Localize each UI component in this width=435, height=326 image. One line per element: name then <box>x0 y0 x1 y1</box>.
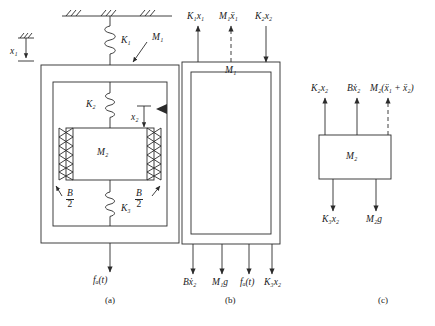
damper-left-leader <box>56 186 62 196</box>
label-force-Bx2dot-c: Bẋ₂ <box>347 84 360 94</box>
spring-K1 <box>105 16 116 65</box>
caption-panel-a: (a) <box>105 295 115 305</box>
fbd-M1-outer-box <box>182 62 280 244</box>
label-M1-body: M₁ <box>225 66 236 76</box>
damper-right-leader <box>152 186 160 196</box>
label-force-Bx2dot-b: Bẋ₂ <box>183 278 196 288</box>
label-K2: K₂ <box>86 100 96 110</box>
caption-panel-b: (b) <box>225 295 236 305</box>
panel-a <box>18 10 179 272</box>
label-force-M1g: M₁g <box>212 278 228 288</box>
label-force-K1x1: K₁x₁ <box>187 12 204 22</box>
damper-right-denominator: 2 <box>135 200 143 210</box>
label-x1: x₁ <box>10 47 18 57</box>
label-applied-force: fₐ(t) <box>93 276 107 286</box>
label-force-M1x1ddot: M₁ẍ₁ <box>219 12 238 22</box>
fbd-M1-inner-box <box>191 72 271 234</box>
ground-hatching <box>62 10 172 16</box>
panel-b <box>182 26 280 274</box>
label-force-K3x2-b: K₃x₂ <box>264 278 281 288</box>
M1-leader-line <box>133 42 147 62</box>
label-force-fa-t-b: fₐ(t) <box>240 278 254 288</box>
label-damper-left-B-over-2: B 2 <box>66 189 74 209</box>
label-force-K2x2-c: K₂x₂ <box>311 84 328 94</box>
damper-right-numerator: B <box>135 189 143 200</box>
label-M2-body: M₂ <box>346 152 357 162</box>
label-damper-right-B-over-2: B 2 <box>135 189 143 209</box>
label-M1: M₁ <box>152 33 163 43</box>
label-K1: K₁ <box>121 36 131 46</box>
damper-left-numerator: B <box>66 189 74 200</box>
label-x2: x₂ <box>131 113 139 123</box>
x1-reference-ground <box>18 33 34 38</box>
damper-left-denominator: 2 <box>66 200 74 210</box>
label-M2-panel-a: M₂ <box>97 148 108 158</box>
x2-displacement-arrow <box>137 106 151 127</box>
label-force-K3x2-c: K₃x₂ <box>322 215 339 225</box>
label-force-K2x2-b: K₂x₂ <box>255 12 272 22</box>
label-K3: K₃ <box>121 204 131 214</box>
label-force-M2-accel: M₂(ẍ₁ + ẍ₂) <box>370 84 414 94</box>
mass-M2-block <box>66 128 154 180</box>
spring-K2 <box>106 82 115 128</box>
spring-K3 <box>106 180 115 226</box>
pointer-triangle <box>156 104 167 114</box>
x1-displacement-arrow <box>18 38 34 61</box>
caption-panel-c: (c) <box>378 295 388 305</box>
label-force-M2g: M₂g <box>366 215 382 225</box>
